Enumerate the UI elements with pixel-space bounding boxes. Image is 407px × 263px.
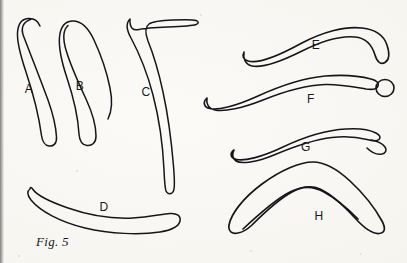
specimen-f-outline [204,75,378,110]
specimen-h-outline [229,162,385,234]
specimen-label-c: C [141,85,150,99]
specimen-c [127,19,198,194]
specimen-c-outline [127,19,198,194]
scan-speck [250,250,252,252]
specimen-h [229,162,385,234]
specimen-g-tip-notch [367,140,386,154]
specimen-h-inner-edge [243,187,358,229]
specimen-label-e: E [312,38,321,52]
specimen-b-outline [59,21,111,146]
specimen-b [59,21,111,146]
figure-caption: Fig. 5 [36,234,69,250]
scan-speck [76,170,78,172]
scan-speck [18,255,20,257]
figure-plate: ABCDEFGH Fig. 5 [0,0,407,263]
specimen-f-knob [376,80,394,97]
scan-speck [200,14,202,16]
specimen-label-a: A [25,82,34,96]
specimen-f [204,75,394,110]
specimen-label-h: H [314,209,323,223]
specimen-label-f: F [307,92,315,106]
specimen-a-outline [17,18,56,146]
specimen-label-d: D [99,200,108,214]
specimen-label-b: B [76,79,85,93]
specimen-label-g: G [301,140,311,154]
specimen-outlines [0,0,407,263]
scan-speck [360,253,362,255]
specimen-a [17,18,56,146]
